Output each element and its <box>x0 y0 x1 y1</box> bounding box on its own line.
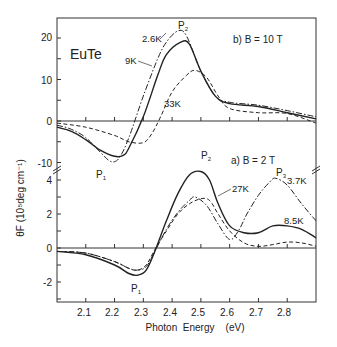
curve-a-3.7K <box>57 178 316 270</box>
curve-a-27K <box>57 198 316 270</box>
peak-label-a-p2: P2 <box>201 150 212 162</box>
svg-text:P3: P3 <box>276 167 287 179</box>
chart: 20 10 0 -10 4 2 0 -2 2.1 2.2 2.3 2.4 2.5… <box>0 0 337 347</box>
peak-label-b-p2: P2 <box>178 20 189 32</box>
ytick-label: 10 <box>41 75 53 86</box>
material-title: EuTe <box>70 46 102 62</box>
svg-text:P2: P2 <box>178 20 189 32</box>
curve-label-3.7K: 3.7K <box>287 175 307 186</box>
xtick-label: 2.3 <box>134 307 148 318</box>
panel-a-label: a) B = 2 T <box>231 155 275 166</box>
xtick-label: 2.8 <box>277 307 291 318</box>
ytick-label: 0 <box>46 243 52 254</box>
panel-b-label: b) B = 10 T <box>233 34 283 45</box>
ytick-label: 2 <box>46 209 52 220</box>
x-axis-label: Photon Energy (eV) <box>146 322 245 333</box>
svg-text:P2: P2 <box>201 150 212 162</box>
ytick-label: 20 <box>41 32 53 43</box>
ytick-label: 4 <box>46 175 52 186</box>
xtick-label: 2.2 <box>105 307 119 318</box>
peak-label-a-p1: P1 <box>131 283 142 295</box>
xtick-label: 2.7 <box>249 307 263 318</box>
curve-label-2.6K: 2.6K <box>142 33 162 44</box>
svg-text:P1: P1 <box>131 283 142 295</box>
curves <box>57 30 316 275</box>
ytick-label: 0 <box>46 116 52 127</box>
xtick-label: 2.4 <box>163 307 177 318</box>
curve-a-8.5K <box>57 171 316 275</box>
xtick-label: 2.5 <box>191 307 205 318</box>
ticks <box>57 38 287 302</box>
curve-label-8.5K: 8.5K <box>284 215 304 226</box>
svg-text:P1: P1 <box>96 169 107 181</box>
ytick-label: -2 <box>43 277 52 288</box>
xtick-label: 2.1 <box>77 307 91 318</box>
leader-line <box>218 189 231 196</box>
xtick-label: 2.6 <box>220 307 234 318</box>
peak-label-b-p1: P1 <box>96 169 107 181</box>
curve-label-9K: 9K <box>125 55 137 66</box>
curve-b-33K <box>57 70 316 143</box>
leader-line <box>138 61 152 66</box>
y-axis-label: θF (10⁵deg cm⁻¹) <box>15 159 26 237</box>
curve-label-33K: 33K <box>164 98 182 109</box>
peak-label-a-p3: P3 <box>276 167 287 179</box>
ytick-label: -10 <box>38 158 53 169</box>
curve-label-27K: 27K <box>232 183 250 194</box>
